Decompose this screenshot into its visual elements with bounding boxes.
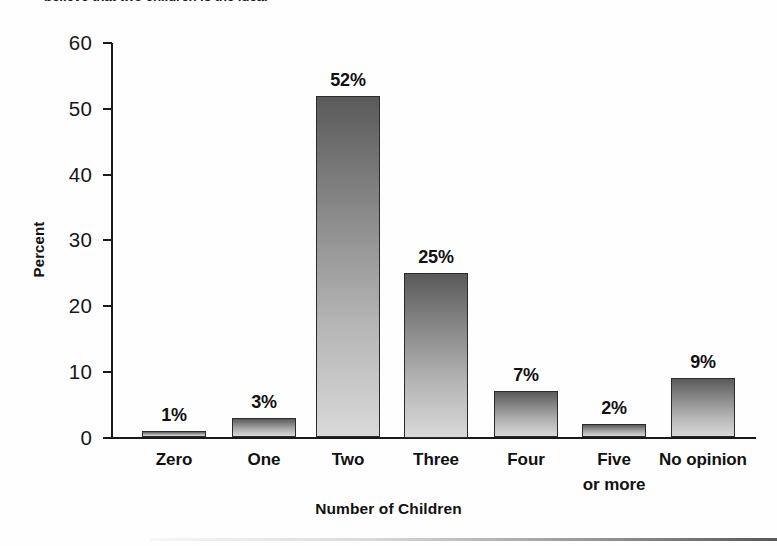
y-axis-tick-mark xyxy=(103,239,112,241)
x-axis-category-label: No opinion xyxy=(643,448,763,473)
bar[interactable] xyxy=(232,418,296,438)
y-axis-tick-label: 0 xyxy=(48,426,92,450)
y-axis-tick-mark xyxy=(103,174,112,176)
bar-value-label: 2% xyxy=(569,398,659,419)
bar[interactable] xyxy=(142,431,206,438)
chart-page: believe that two children is the ideal 0… xyxy=(0,0,777,546)
bar-value-label: 25% xyxy=(391,247,481,268)
y-axis-tick-mark xyxy=(103,305,112,307)
x-axis-title: Number of Children xyxy=(0,500,777,518)
bar-chart-plot-area: 0102030405060 Percent 1%3%52%25%7%2%9% Z… xyxy=(0,0,777,546)
y-axis-tick-mark xyxy=(103,371,112,373)
y-axis-tick-label: 30 xyxy=(48,228,92,252)
x-axis-category-label-line: No opinion xyxy=(643,448,763,473)
bar-value-label: 1% xyxy=(129,405,219,426)
y-axis-tick-label: 40 xyxy=(48,163,92,187)
bar-value-label: 3% xyxy=(219,392,309,413)
y-axis-tick-label: 20 xyxy=(48,294,92,318)
bar-value-label: 9% xyxy=(658,352,748,373)
bar-value-label: 7% xyxy=(481,365,571,386)
x-axis-category-label-line: or more xyxy=(554,473,674,498)
y-axis-tick-mark xyxy=(103,42,112,44)
y-axis-title: Percent xyxy=(30,190,47,310)
bar[interactable] xyxy=(316,96,380,438)
y-axis-tick-label: 50 xyxy=(48,97,92,121)
bar[interactable] xyxy=(582,424,646,437)
y-axis-tick-label: 10 xyxy=(48,360,92,384)
bar[interactable] xyxy=(494,391,558,437)
bar-value-label: 52% xyxy=(303,70,393,91)
y-axis-tick-mark xyxy=(103,437,112,439)
page-bottom-rule xyxy=(150,538,777,541)
bar[interactable] xyxy=(404,273,468,437)
y-axis-tick-mark xyxy=(103,108,112,110)
bar[interactable] xyxy=(671,378,735,437)
y-axis-tick-label: 60 xyxy=(48,31,92,55)
